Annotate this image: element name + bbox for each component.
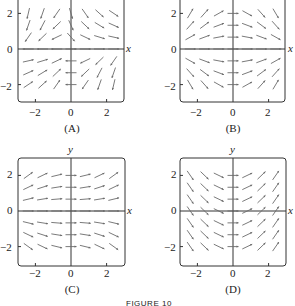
arrow-head-icon <box>103 210 105 212</box>
arrow-head-icon <box>237 24 239 26</box>
arrow-head-icon <box>60 222 62 224</box>
panel-b-xtick-0: 0 <box>230 107 236 118</box>
arrow-head-icon <box>237 186 239 188</box>
panel-b-x-axis-label: x <box>288 43 293 54</box>
arrow-head-icon <box>75 210 77 212</box>
arrow-head-icon <box>66 60 68 62</box>
panel-c-y-axis-label: y <box>68 144 73 155</box>
arrow-head-icon <box>251 48 253 50</box>
arrow-head-icon <box>237 174 239 176</box>
arrow-head-icon <box>237 48 239 50</box>
arrow-head-icon <box>237 210 239 212</box>
panel-d-xtick-0: 0 <box>230 268 236 279</box>
arrow-head-icon <box>23 48 25 50</box>
arrow-head-icon <box>237 60 239 62</box>
arrow-head-icon <box>237 222 239 224</box>
panel-b-caption: (B) <box>213 122 253 134</box>
arrow-head-icon <box>46 210 48 212</box>
arrow-head-icon <box>194 48 196 50</box>
panel-d-ytick-0: 0 <box>171 205 177 216</box>
panel-c-xtick-0: 0 <box>68 268 74 279</box>
arrow-head-icon <box>75 222 77 224</box>
panel-c-ytick-2: 2 <box>7 169 13 180</box>
panel-a-ytick-0: 0 <box>7 44 13 55</box>
panel-b-xtick-2: 2 <box>265 107 271 118</box>
panel-b-ytick-2: 2 <box>171 8 177 19</box>
panel-d-ytick-neg2: −2 <box>164 242 176 253</box>
panel-d-ytick-2: 2 <box>171 169 177 180</box>
arrow-head-icon <box>75 246 77 248</box>
panel-b-ytick-neg2: −2 <box>164 81 176 92</box>
arrow-head-icon <box>66 72 68 74</box>
arrow-head-icon <box>32 210 34 212</box>
arrow-head-icon <box>237 36 239 38</box>
arrow-head-icon <box>279 48 281 50</box>
arrow-head-icon <box>89 48 91 50</box>
slope-field-figure <box>0 0 295 306</box>
arrow-head-icon <box>222 48 224 50</box>
panel-c-xtick-2: 2 <box>104 268 110 279</box>
panel-b-xtick-neg2: −2 <box>190 107 202 118</box>
arrow-head-icon <box>89 210 91 212</box>
arrow-head-icon <box>75 186 77 188</box>
panel-d-xtick-neg2: −2 <box>190 268 202 279</box>
panel-c-ytick-0: 0 <box>7 205 13 216</box>
panel-d-xtick-2: 2 <box>265 268 271 279</box>
arrow-head-icon <box>60 198 62 200</box>
panel-a-caption: (A) <box>52 122 92 134</box>
arrow-head-icon <box>237 84 239 86</box>
panel-d-y-axis-label: y <box>230 144 235 155</box>
figure-caption: FIGURE 10 <box>126 299 172 306</box>
panel-c-caption: (C) <box>52 283 92 295</box>
arrow-head-icon <box>237 234 239 236</box>
panel-a-ytick-2: 2 <box>7 8 13 19</box>
arrow-head-icon <box>89 198 91 200</box>
panel-a-xtick-neg2: −2 <box>29 107 41 118</box>
panel-d-x-axis-label: x <box>288 205 293 216</box>
panel-d-caption: (D) <box>213 283 253 295</box>
arrow-head-icon <box>237 198 239 200</box>
arrow-head-icon <box>237 246 239 248</box>
arrow-head-icon <box>37 48 39 50</box>
arrow-head-icon <box>75 48 77 50</box>
panel-b-ytick-0: 0 <box>171 44 177 55</box>
panel-a-xtick-2: 2 <box>104 107 110 118</box>
arrow-head-icon <box>60 210 62 212</box>
panel-c-x-axis-label: x <box>127 205 132 216</box>
arrow-head-icon <box>237 72 239 74</box>
arrow-head-icon <box>75 234 77 236</box>
arrow-head-icon <box>117 48 119 50</box>
arrow-head-icon <box>265 48 267 50</box>
arrow-head-icon <box>66 84 68 86</box>
arrow-head-icon <box>51 48 53 50</box>
arrow-head-icon <box>237 12 239 14</box>
panel-c-xtick-neg2: −2 <box>29 268 41 279</box>
arrow-head-icon <box>89 222 91 224</box>
panel-a-x-axis-label: x <box>126 43 131 54</box>
arrow-head-icon <box>75 174 77 176</box>
arrow-head-icon <box>75 198 77 200</box>
panel-a-ytick-neg2: −2 <box>0 81 12 92</box>
panel-c-ytick-neg2: −2 <box>0 242 12 253</box>
arrow-head-icon <box>117 210 119 212</box>
arrow-head-icon <box>208 48 210 50</box>
panel-a-xtick-0: 0 <box>68 107 74 118</box>
arrow-head-icon <box>103 48 105 50</box>
